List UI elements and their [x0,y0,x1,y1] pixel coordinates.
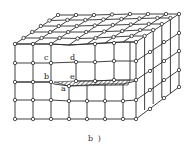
label-e: e [70,73,75,81]
label-a: a [61,85,66,93]
label-c: c [44,54,48,62]
label-d: d [70,54,75,62]
lattice-diagram [0,0,194,151]
figure-caption: b ) [88,134,102,143]
label-b: b [44,73,49,81]
